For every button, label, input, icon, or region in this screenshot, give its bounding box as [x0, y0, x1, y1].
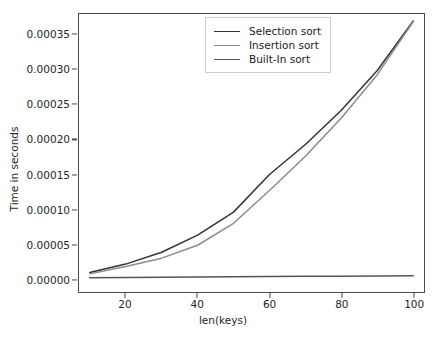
- legend-line-swatch-insertion-sort: [214, 45, 240, 46]
- y-tick-label: 0.00015: [27, 169, 70, 181]
- y-axis-ticks: 0.000000.000050.000100.000150.000200.000…: [0, 0, 70, 337]
- x-tick-mark: [269, 293, 270, 298]
- legend-label: Selection sort: [249, 25, 321, 37]
- legend: Selection sort Insertion sort Built-In s…: [205, 17, 331, 73]
- x-tick-mark: [197, 293, 198, 298]
- legend-line-swatch-builtin-sort: [214, 59, 240, 60]
- x-tick-label: 100: [404, 298, 424, 310]
- x-tick-label: 20: [118, 298, 131, 310]
- y-tick-label: 0.00020: [27, 133, 70, 145]
- x-tick-label: 60: [263, 298, 276, 310]
- y-tick-mark: [72, 69, 77, 70]
- x-axis-label: len(keys): [0, 314, 446, 326]
- y-tick-label: 0.00000: [27, 274, 70, 286]
- y-tick-label: 0.00030: [27, 63, 70, 75]
- y-tick-mark: [72, 209, 77, 210]
- x-tick-label: 80: [335, 298, 348, 310]
- legend-item: Built-In sort: [214, 52, 321, 66]
- y-tick-label: 0.00025: [27, 98, 70, 110]
- legend-label: Insertion sort: [249, 39, 319, 51]
- x-tick-mark: [124, 293, 125, 298]
- y-tick-label: 0.00035: [27, 28, 70, 40]
- y-tick-label: 0.00010: [27, 204, 70, 216]
- y-tick-mark: [72, 104, 77, 105]
- y-tick-mark: [72, 244, 77, 245]
- legend-item: Selection sort: [214, 24, 321, 38]
- legend-item: Insertion sort: [214, 38, 321, 52]
- y-tick-label: 0.00005: [27, 239, 70, 251]
- legend-label: Built-In sort: [249, 53, 310, 65]
- x-tick-mark: [341, 293, 342, 298]
- y-tick-mark: [72, 34, 77, 35]
- y-tick-mark: [72, 279, 77, 280]
- y-tick-mark: [72, 139, 77, 140]
- matplotlib-figure: Time in seconds 0.000000.000050.000100.0…: [0, 0, 446, 337]
- y-tick-mark: [72, 174, 77, 175]
- x-tick-label: 40: [191, 298, 204, 310]
- legend-line-swatch-selection-sort: [214, 31, 240, 32]
- series-line: [90, 276, 413, 278]
- x-tick-mark: [414, 293, 415, 298]
